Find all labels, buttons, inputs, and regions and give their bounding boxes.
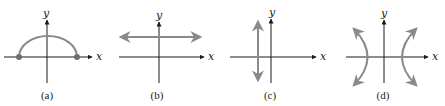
graph-a-canvas (0, 0, 111, 106)
x-axis-label: x (432, 51, 438, 62)
x-axis-label: x (208, 51, 214, 62)
graph-d-canvas (336, 0, 445, 106)
panel-caption: (d) (377, 90, 390, 101)
x-axis-label: x (96, 51, 102, 62)
x-axis-label: x (320, 51, 326, 62)
graph-panel-d: y x (d) (336, 0, 445, 106)
panel-caption: (b) (151, 90, 164, 101)
graph-panel-b: y x (b) (112, 0, 223, 106)
graph-c-canvas (224, 0, 335, 106)
y-axis-label: y (269, 7, 275, 18)
y-axis-label: y (156, 10, 162, 21)
graph-b-canvas (112, 0, 223, 106)
panel-caption: (a) (41, 90, 53, 101)
endpoint-dot-right (74, 54, 80, 60)
semicircle-curve (19, 36, 77, 57)
y-axis-label: y (381, 8, 387, 19)
graph-panel-c: y x (c) (224, 0, 335, 106)
y-axis-label: y (43, 8, 49, 19)
graph-panel-a: y x (a) (0, 0, 111, 106)
endpoint-dot-left (16, 54, 22, 60)
panel-caption: (c) (264, 90, 276, 101)
